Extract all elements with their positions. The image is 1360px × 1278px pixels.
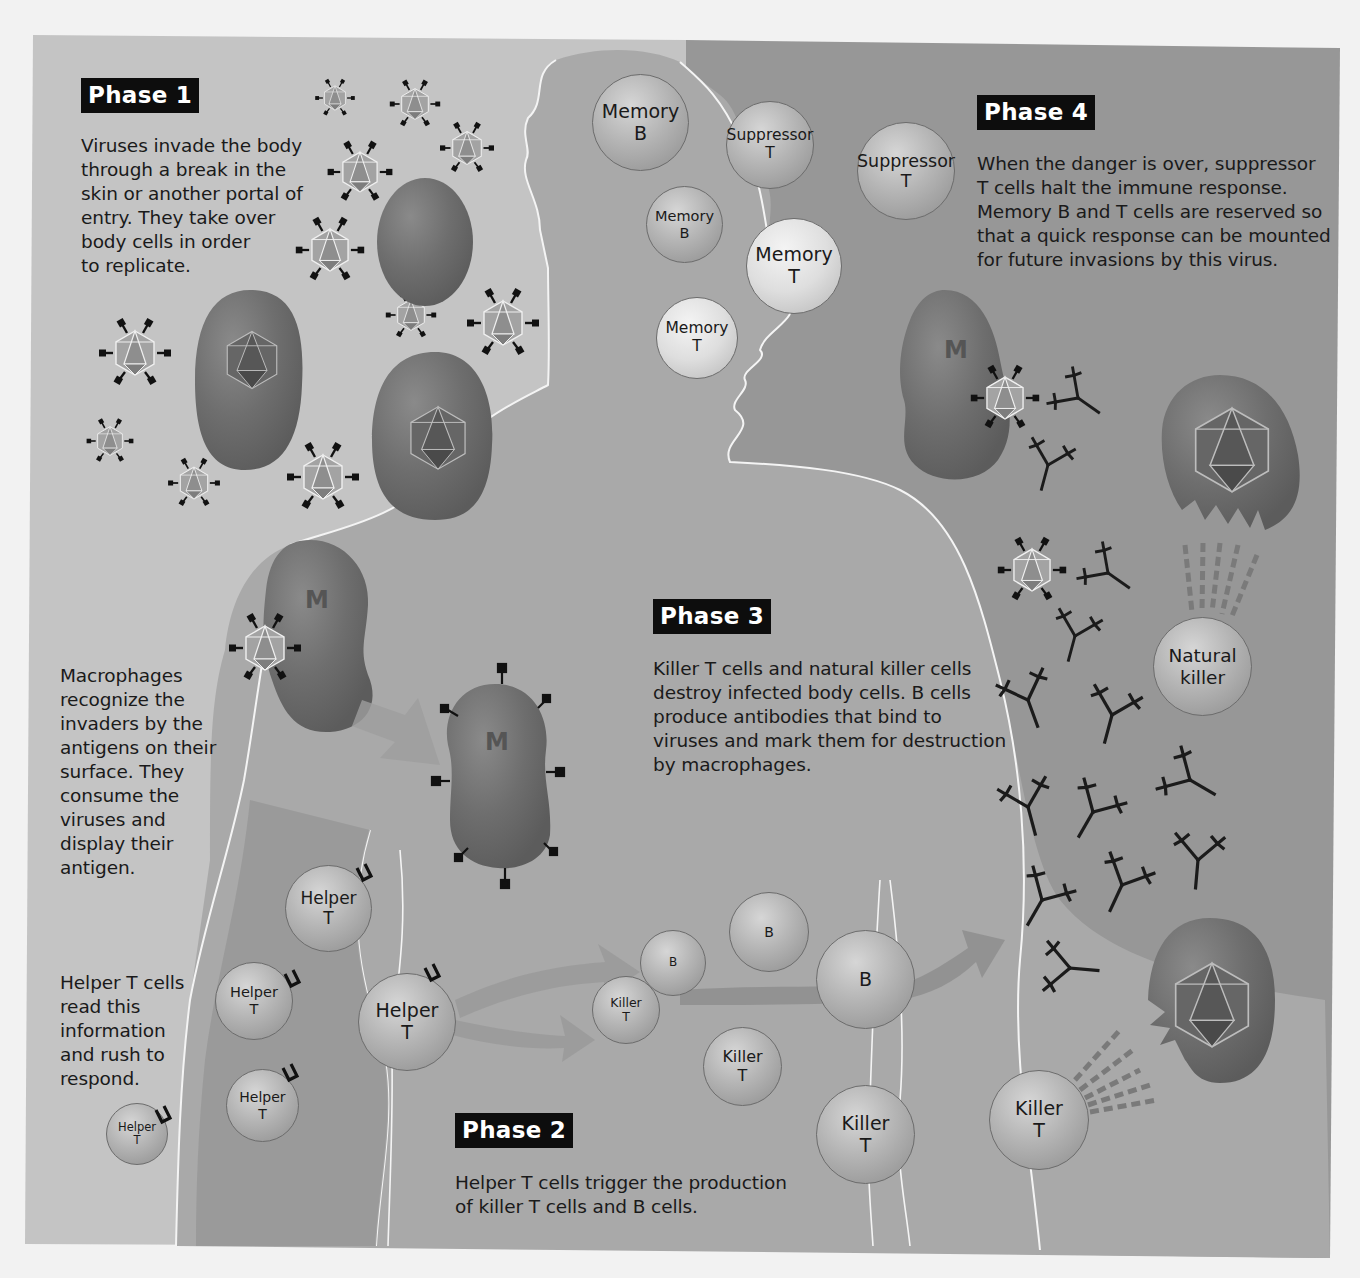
b-cell: B xyxy=(816,930,915,1029)
memory-b-cell: Memory B xyxy=(646,186,723,263)
macrophage-label-2: M xyxy=(485,728,509,756)
killer-t-cell: Killer T xyxy=(592,976,660,1044)
phase-4-description: When the danger is over, suppressor T ce… xyxy=(977,152,1331,272)
phase-3-description: Killer T cells and natural killer cells … xyxy=(653,657,1006,777)
suppressor-t-cell: Suppressor T xyxy=(726,101,814,189)
immune-response-diagram: M M M xyxy=(0,0,1360,1278)
helper-t-cell: Helper T xyxy=(358,973,456,1071)
phase-1-label: Phase 1 xyxy=(81,78,199,113)
killer-t-cell: Killer T xyxy=(703,1027,782,1106)
helper-t-cell: Helper T xyxy=(215,962,293,1040)
memory-b-cell: Memory B xyxy=(592,74,689,171)
suppressor-t-cell: Suppressor T xyxy=(857,122,955,220)
b-cell: B xyxy=(729,892,809,972)
helper-t-cell: Helper T xyxy=(106,1103,168,1165)
macrophage-label-3: M xyxy=(944,336,968,364)
helper-t-cell: Helper T xyxy=(226,1069,299,1142)
killer-t-cell: Killer T xyxy=(816,1085,915,1184)
macrophage-description: Macrophages recognize the invaders by th… xyxy=(60,664,216,880)
killer-t-cell: Killer T xyxy=(989,1070,1089,1170)
macrophage-label-1: M xyxy=(305,586,329,614)
memory-t-cell: Memory T xyxy=(656,297,738,379)
memory-t-cell: Memory T xyxy=(746,218,842,314)
helper-t-description: Helper T cells read this information and… xyxy=(60,971,184,1091)
phase-2-description: Helper T cells trigger the production of… xyxy=(455,1171,787,1219)
phase-1-description: Viruses invade the body through a break … xyxy=(81,134,303,278)
phase-2-label: Phase 2 xyxy=(455,1113,573,1148)
phase-3-label: Phase 3 xyxy=(653,599,771,634)
phase-4-label: Phase 4 xyxy=(977,95,1095,130)
helper-t-cell: Helper T xyxy=(285,865,372,952)
natural-killer-cell: Natural killer xyxy=(1153,617,1252,716)
